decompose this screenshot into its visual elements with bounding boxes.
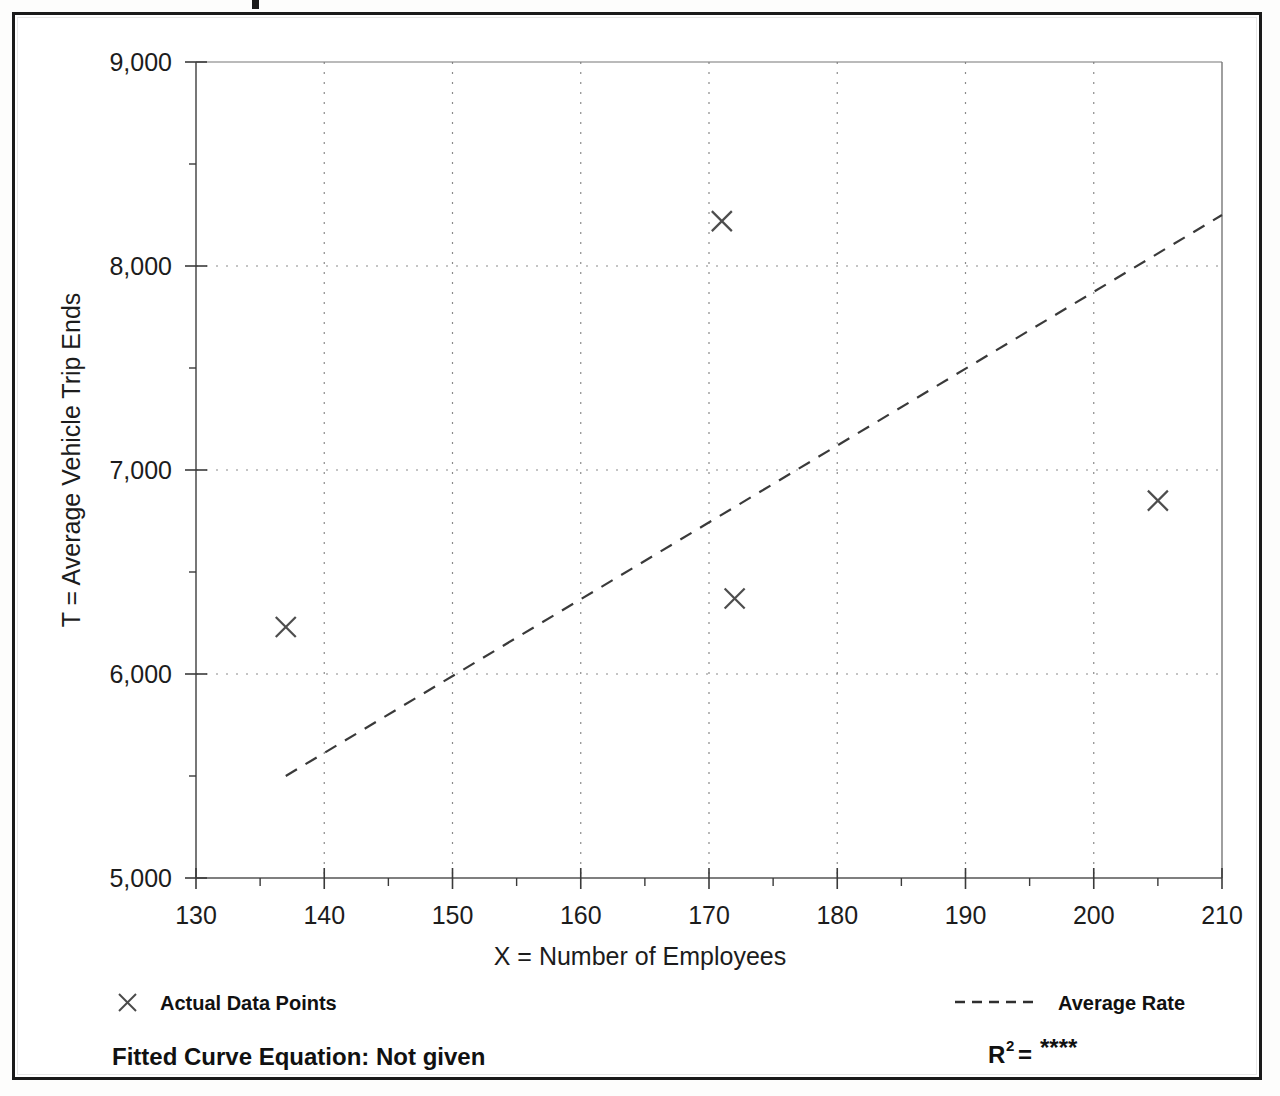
x-tick-label: 200: [1073, 901, 1115, 929]
data-point-x-marker: [725, 589, 745, 609]
x-tick-label: 140: [303, 901, 345, 929]
x-tick-label: 210: [1201, 901, 1243, 929]
chart-container: 5,0006,0007,0008,0009,000 13014015016017…: [0, 0, 1280, 1096]
r-squared-symbol: R: [988, 1041, 1005, 1068]
legend-entry-actual-data-points: Actual Data Points: [119, 992, 337, 1014]
y-axis-title: T = Average Vehicle Trip Ends: [57, 293, 85, 628]
x-tick-label: 170: [688, 901, 730, 929]
y-tick-label: 9,000: [109, 48, 172, 76]
y-tick-label: 7,000: [109, 456, 172, 484]
y-axis-tick-labels: 5,0006,0007,0008,0009,000: [109, 48, 172, 892]
r-squared-annotation: R 2 = ****: [988, 1034, 1078, 1068]
x-tick-label: 180: [816, 901, 858, 929]
y-tick-label: 6,000: [109, 660, 172, 688]
x-tick-label: 130: [175, 901, 217, 929]
x-axis-tick-labels: 130140150160170180190200210: [175, 901, 1243, 929]
legend-entry-average-rate: Average Rate: [955, 992, 1185, 1014]
fitted-curve-equation: Fitted Curve Equation: Not given: [112, 1043, 485, 1070]
scatter-chart: 5,0006,0007,0008,0009,000 13014015016017…: [0, 0, 1280, 1096]
x-tick-label: 190: [945, 901, 987, 929]
legend-label-actual-data-points: Actual Data Points: [160, 992, 337, 1014]
actual-data-point-markers: [276, 211, 1168, 637]
average-rate-trendline: [286, 215, 1222, 776]
x-tick-label: 150: [432, 901, 474, 929]
data-point-x-marker: [276, 617, 296, 637]
r-squared-equals: =: [1018, 1041, 1032, 1068]
r-squared-value: ****: [1040, 1034, 1078, 1061]
x-marker-icon: [119, 994, 136, 1011]
data-point-x-marker: [1148, 491, 1168, 511]
legend-label-average-rate: Average Rate: [1058, 992, 1185, 1014]
x-gridlines: [324, 62, 1094, 878]
x-tick-label: 160: [560, 901, 602, 929]
page-background: 5,0006,0007,0008,0009,000 13014015016017…: [0, 0, 1280, 1096]
r-squared-exponent: 2: [1006, 1037, 1014, 1054]
data-point-x-marker: [712, 211, 732, 231]
y-tick-label: 8,000: [109, 252, 172, 280]
x-axis-title: X = Number of Employees: [494, 942, 787, 970]
y-tick-label: 5,000: [109, 864, 172, 892]
